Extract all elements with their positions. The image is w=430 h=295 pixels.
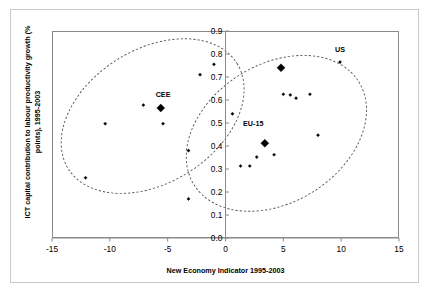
plot-area-frame <box>52 31 399 238</box>
y-tick-label: 0.2 <box>211 187 223 197</box>
x-tick-label: -10 <box>104 244 116 254</box>
y-tick-label: 0.3 <box>211 164 223 174</box>
chart-figure: 0.00.10.20.30.40.50.60.70.80.9-15-10-505… <box>0 0 430 295</box>
y-tick-label: 0.0 <box>211 233 223 243</box>
x-tick-label: -5 <box>164 244 171 254</box>
y-tick-label: 0.9 <box>211 26 223 36</box>
y-axis-title: ICT capital contribution to labour produ… <box>17 16 49 228</box>
x-tick-label: 5 <box>281 244 286 254</box>
x-tick-label: -15 <box>46 244 58 254</box>
y-tick-label: 0.1 <box>211 210 223 220</box>
series-label-eu-15: EU-15 <box>243 119 263 128</box>
series-label-cee: CEE <box>156 90 171 99</box>
y-tick-label: 0.4 <box>211 141 223 151</box>
x-axis-title: New Economy Indicator 1995-2003 <box>52 266 399 275</box>
y-tick-label: 0.6 <box>211 95 223 105</box>
series-label-us: US <box>335 45 345 54</box>
x-tick-label: 0 <box>223 244 228 254</box>
x-tick-label: 10 <box>336 244 345 254</box>
y-tick-label: 0.7 <box>211 72 223 82</box>
y-tick-label: 0.8 <box>211 49 223 59</box>
y-tick-label: 0.5 <box>211 118 223 128</box>
x-tick-label: 15 <box>394 244 403 254</box>
